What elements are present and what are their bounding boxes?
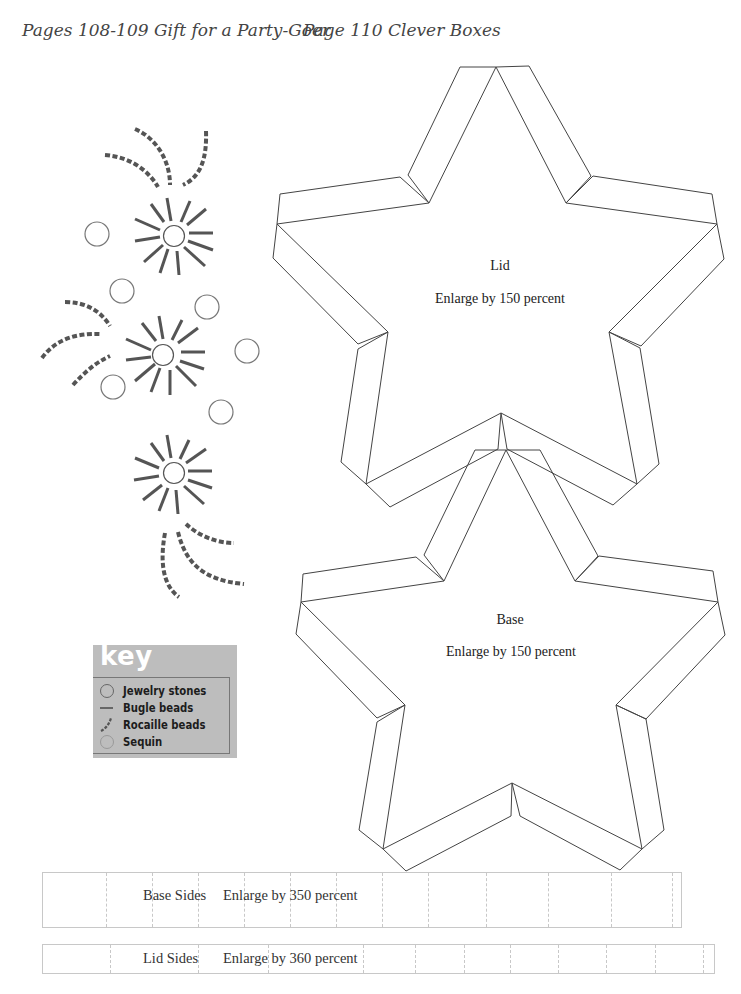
sunburst-3 xyxy=(134,435,212,514)
base-label: Base xyxy=(470,612,550,628)
rocaille-strands-bottom xyxy=(163,524,244,597)
bead-key: key Jewelry stones Bugle beads Rocaille … xyxy=(93,645,237,758)
key-item-label: Sequin xyxy=(123,735,162,749)
rocaille-strands-middle xyxy=(42,302,110,385)
jewelry-stones xyxy=(85,222,259,424)
key-item-rocaille-beads: Rocaille beads xyxy=(99,717,217,733)
key-item-label: Bugle beads xyxy=(123,701,193,715)
lid-star-template xyxy=(273,66,724,507)
lid-sides-name: Lid Sides xyxy=(143,950,198,967)
rocaille-strands-top xyxy=(105,129,206,187)
key-item-bugle-beads: Bugle beads xyxy=(99,700,203,716)
jewelry-stone-circle-icon xyxy=(99,683,115,699)
lid-name: Lid xyxy=(490,258,509,273)
sunburst-1 xyxy=(135,198,213,275)
sequin-circle-icon xyxy=(99,734,115,750)
lid-instruction-text: Enlarge by 150 percent xyxy=(435,291,565,306)
base-sides-name: Base Sides xyxy=(143,887,206,904)
bead-pattern xyxy=(42,129,259,597)
lid-star-outline xyxy=(277,67,717,484)
key-item-label: Rocaille beads xyxy=(123,718,206,732)
lid-instruction: Enlarge by 150 percent xyxy=(400,291,600,307)
bugle-bead-line-icon xyxy=(99,700,115,716)
key-item-label: Jewelry stones xyxy=(123,684,206,698)
base-sides-instruction: Enlarge by 350 percent xyxy=(223,887,358,904)
key-title: key xyxy=(100,641,153,671)
lid-sides-strip: Lid Sides Enlarge by 360 percent xyxy=(42,944,715,974)
pattern-artwork xyxy=(0,0,741,994)
lid-label: Lid xyxy=(460,258,540,274)
base-name: Base xyxy=(496,612,523,627)
sunburst-2 xyxy=(126,316,205,395)
lid-sides-instruction: Enlarge by 360 percent xyxy=(223,950,358,967)
key-list: Jewelry stones Bugle beads Rocaille bead… xyxy=(93,677,230,754)
base-instruction-text: Enlarge by 150 percent xyxy=(446,644,576,659)
base-instruction: Enlarge by 150 percent xyxy=(411,644,611,660)
base-sides-strip: Base Sides Enlarge by 350 percent xyxy=(42,872,682,928)
base-star-template xyxy=(296,450,725,871)
key-item-jewelry-stones: Jewelry stones xyxy=(99,683,218,699)
key-item-sequin: Sequin xyxy=(99,734,168,750)
rocaille-bead-dashed-icon xyxy=(99,717,115,733)
